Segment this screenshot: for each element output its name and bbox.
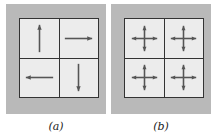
up-arrow-icon xyxy=(37,25,41,52)
panel-a xyxy=(6,4,106,114)
right-arrow-icon xyxy=(184,76,197,80)
down-arrow-icon xyxy=(76,64,80,91)
right-arrow-icon xyxy=(145,76,158,80)
left-arrow-icon xyxy=(26,75,53,79)
left-arrow-icon xyxy=(171,76,184,80)
left-arrow-icon xyxy=(171,37,184,41)
arrows-a xyxy=(20,19,98,97)
arrows-b xyxy=(125,19,203,97)
up-arrow-icon xyxy=(182,65,186,78)
down-arrow-icon xyxy=(182,39,186,52)
up-arrow-icon xyxy=(182,26,186,39)
up-arrow-icon xyxy=(143,65,147,78)
left-arrow-icon xyxy=(132,37,145,41)
caption-b: (b) xyxy=(111,120,211,133)
down-arrow-icon xyxy=(182,78,186,91)
grid-b xyxy=(124,18,204,98)
caption-a: (a) xyxy=(6,120,106,133)
right-arrow-icon xyxy=(65,36,92,40)
panel-b xyxy=(111,4,211,114)
down-arrow-icon xyxy=(143,78,147,91)
up-arrow-icon xyxy=(143,26,147,39)
down-arrow-icon xyxy=(143,39,147,52)
right-arrow-icon xyxy=(184,37,197,41)
left-arrow-icon xyxy=(132,76,145,80)
grid-a xyxy=(19,18,99,98)
right-arrow-icon xyxy=(145,37,158,41)
